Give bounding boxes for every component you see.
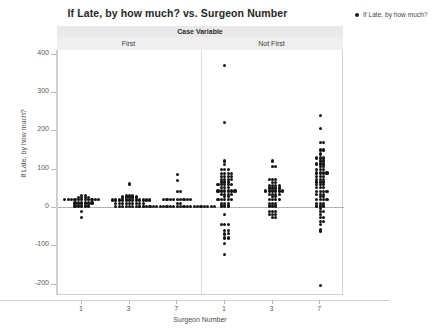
data-point [223, 242, 226, 245]
data-point [128, 182, 131, 185]
y-axis-tick [51, 92, 56, 93]
y-axis-tick [51, 245, 56, 246]
data-point [230, 183, 233, 186]
data-point [118, 205, 121, 208]
x-axis-tick [129, 300, 130, 304]
y-axis-tick [51, 130, 56, 131]
data-point [227, 232, 230, 235]
data-point [322, 186, 325, 189]
data-point [223, 159, 226, 162]
data-point [322, 141, 325, 144]
legend-marker-icon [355, 13, 359, 17]
data-point [179, 190, 182, 193]
data-point [319, 223, 322, 226]
data-point [315, 193, 318, 196]
data-point [230, 198, 233, 201]
y-axis-tick [51, 207, 56, 208]
y-axis-title: If Late, by how much? [20, 69, 27, 219]
y-axis-tick-label: 400 [9, 49, 49, 56]
data-point [230, 193, 233, 196]
chart-root: If Late, by how much? vs. Surgeon Number… [0, 0, 433, 331]
data-point [271, 159, 274, 162]
data-point [319, 284, 322, 287]
data-point [216, 198, 219, 201]
chart-title: If Late, by how much? vs. Surgeon Number [0, 7, 355, 19]
data-point [172, 198, 175, 201]
x-axis-tick [81, 300, 82, 304]
data-point [63, 198, 66, 201]
data-point [223, 163, 226, 166]
data-point [73, 204, 76, 207]
x-axis-tick-label: 1 [209, 305, 239, 312]
data-point [230, 178, 233, 181]
data-point [322, 210, 325, 213]
panel-strip-levels: First Not First [57, 37, 343, 50]
y-axis-tick-label: -200 [9, 279, 49, 286]
panel-strip-group: Case Variable [57, 26, 343, 37]
y-axis-tick-label: 0 [9, 202, 49, 209]
data-point [223, 223, 226, 226]
x-axis-title: Surgeon Number [57, 316, 343, 323]
x-axis-tick [272, 300, 273, 304]
data-point [169, 198, 172, 201]
data-point [315, 162, 318, 165]
data-point [325, 198, 328, 201]
data-point [220, 223, 223, 226]
x-axis-line [0, 300, 390, 301]
data-point [315, 156, 318, 159]
data-point [223, 168, 226, 171]
y-axis-tick-label: 300 [9, 87, 49, 94]
data-point [148, 205, 151, 208]
x-axis-tick-label: 7 [161, 305, 191, 312]
y-axis-line [56, 50, 57, 295]
data-point [176, 173, 179, 176]
data-point [216, 189, 219, 192]
panel-strip-group-label: Case Variable [57, 26, 343, 37]
data-point [325, 171, 328, 174]
data-point [162, 198, 165, 201]
data-point [315, 198, 318, 201]
x-axis-tick [176, 300, 177, 304]
data-point [227, 168, 230, 171]
data-point [152, 205, 155, 208]
data-point [223, 236, 226, 239]
data-point [322, 148, 325, 151]
data-point [319, 127, 322, 130]
data-point [227, 236, 230, 239]
data-point [233, 189, 236, 192]
data-point [322, 204, 325, 207]
data-point [274, 216, 277, 219]
data-point [227, 204, 230, 207]
y-axis-tick-label: 200 [9, 125, 49, 132]
data-point [165, 205, 168, 208]
data-point [268, 204, 271, 207]
data-point [148, 198, 151, 201]
x-axis-tick [319, 300, 320, 304]
x-axis-tick-label: 1 [66, 305, 96, 312]
x-axis-tick-label: 7 [304, 305, 334, 312]
data-point [315, 186, 318, 189]
y-axis-tick [51, 284, 56, 285]
legend: If Late, by how much? [355, 11, 428, 18]
data-point [319, 153, 322, 156]
data-point [189, 198, 192, 201]
data-point [220, 189, 223, 192]
panel-divider [201, 50, 202, 295]
data-point [80, 210, 83, 213]
data-point [268, 213, 271, 216]
panel-label-not-first: Not First [200, 37, 343, 50]
data-point [227, 223, 230, 226]
data-point [322, 216, 325, 219]
x-axis-tick-label: 3 [114, 305, 144, 312]
data-point [165, 198, 168, 201]
data-point [278, 198, 281, 201]
plot-area [57, 50, 343, 295]
data-point [220, 198, 223, 201]
data-point [142, 205, 145, 208]
data-point [67, 198, 70, 201]
data-point [87, 204, 90, 207]
data-point [278, 193, 281, 196]
data-point [319, 230, 322, 233]
y-axis-tick [51, 169, 56, 170]
data-point [223, 253, 226, 256]
